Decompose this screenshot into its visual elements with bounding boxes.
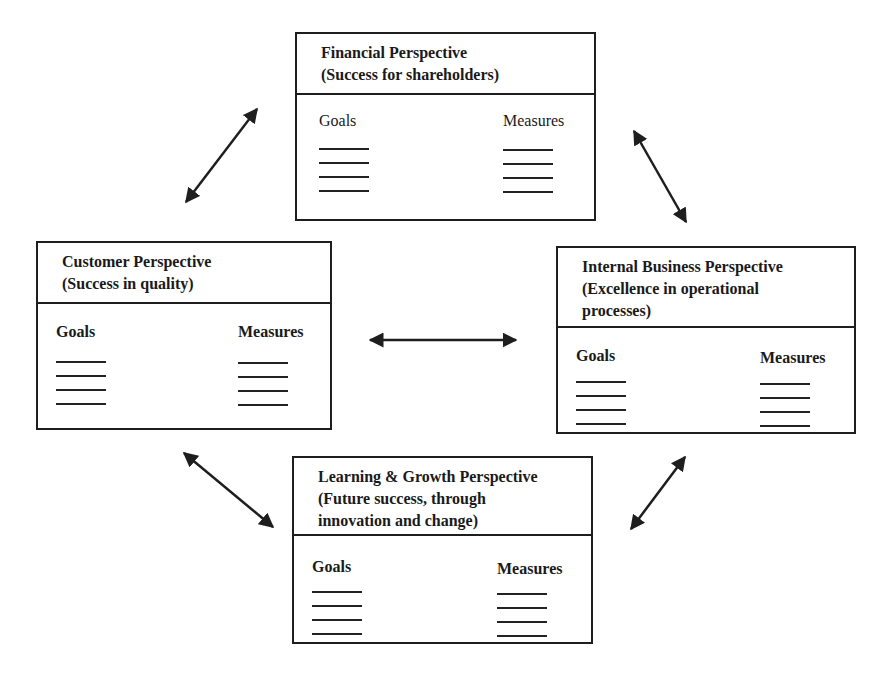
financial-measures-label: Measures xyxy=(503,111,564,131)
learning-goals-lines xyxy=(312,591,362,647)
learning-header: Learning & Growth Perspective (Future su… xyxy=(294,458,591,536)
arrow-customer-financial xyxy=(186,109,257,202)
internal-measures-lines xyxy=(760,383,810,439)
customer-perspective-box: Customer Perspective (Success in quality… xyxy=(36,241,332,430)
internal-header: Internal Business Perspective (Excellenc… xyxy=(558,248,854,328)
customer-measures-lines xyxy=(238,362,288,418)
internal-measures-label: Measures xyxy=(760,348,825,368)
learning-goals-label: Goals xyxy=(312,557,351,577)
financial-goals-lines xyxy=(319,148,369,204)
learning-measures-lines xyxy=(497,593,547,649)
internal-subtitle-line2: processes) xyxy=(582,300,854,322)
financial-goals-label: Goals xyxy=(319,111,356,131)
internal-business-perspective-box: Internal Business Perspective (Excellenc… xyxy=(556,246,856,434)
financial-measures-lines xyxy=(503,149,553,205)
financial-subtitle: (Success for shareholders) xyxy=(321,64,594,86)
customer-measures-label: Measures xyxy=(238,322,303,342)
customer-header: Customer Perspective (Success in quality… xyxy=(38,243,330,304)
financial-perspective-box: Financial Perspective (Success for share… xyxy=(295,32,596,221)
internal-title: Internal Business Perspective xyxy=(582,256,854,278)
learning-growth-perspective-box: Learning & Growth Perspective (Future su… xyxy=(292,456,593,644)
customer-subtitle: (Success in quality) xyxy=(62,273,330,295)
customer-goals-lines xyxy=(56,361,106,417)
arrow-customer-learning xyxy=(184,453,273,527)
learning-measures-label: Measures xyxy=(497,559,562,579)
internal-subtitle-line1: (Excellence in operational xyxy=(582,278,854,300)
learning-title: Learning & Growth Perspective xyxy=(318,466,591,488)
arrow-financial-internal xyxy=(634,131,686,222)
learning-subtitle-line2: innovation and change) xyxy=(318,510,591,532)
financial-header: Financial Perspective (Success for share… xyxy=(297,34,594,95)
arrow-learning-internal xyxy=(631,457,685,529)
internal-goals-label: Goals xyxy=(576,346,615,366)
learning-subtitle-line1: (Future success, through xyxy=(318,488,591,510)
customer-goals-label: Goals xyxy=(56,322,95,342)
customer-title: Customer Perspective xyxy=(62,251,330,273)
financial-title: Financial Perspective xyxy=(321,42,594,64)
internal-goals-lines xyxy=(576,381,626,437)
